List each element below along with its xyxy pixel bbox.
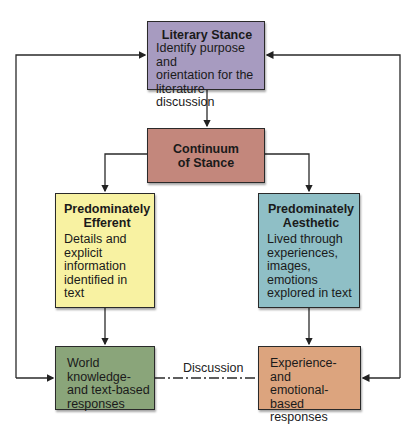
body-line: responses (67, 398, 150, 412)
node-world-knowledge-responses: World knowledge- and text-based response… (55, 346, 155, 410)
body-line: orientation for the (156, 69, 258, 83)
arrow-continuum-to-efferent (105, 154, 147, 191)
node-title: Literary Stance (156, 28, 258, 42)
node-predominately-aesthetic: Predominately Aesthetic Lived through ex… (258, 193, 360, 308)
body-line: explored in text (267, 287, 355, 301)
body-line: experiences, (267, 247, 355, 261)
node-body: World knowledge- and text-based response… (67, 357, 150, 411)
node-title: Predominately Efferent (64, 202, 150, 230)
node-body: Identify purpose and orientation for the… (156, 42, 258, 110)
node-literary-stance: Literary Stance Identify purpose and ori… (147, 21, 265, 90)
body-line: Lived through (267, 233, 355, 247)
body-line: information (64, 260, 150, 274)
body-line: World knowledge- (67, 357, 150, 384)
body-line: emotional-based (270, 384, 356, 411)
title-line: Aesthetic (267, 216, 355, 230)
body-line: literature discussion (156, 83, 258, 110)
node-body: Lived through experiences, images, emoti… (267, 233, 355, 301)
node-body: Experience- and emotional-based response… (270, 357, 356, 425)
node-experience-emotional-responses: Experience- and emotional-based response… (258, 346, 361, 410)
node-title: Predominately Aesthetic (267, 202, 355, 230)
body-line: Identify purpose and (156, 42, 258, 69)
title-line: Predominately (64, 202, 150, 216)
node-continuum-of-stance: Continuum of Stance (147, 128, 265, 183)
body-line: text (64, 287, 150, 301)
literary-stance-diagram: Literary Stance Identify purpose and ori… (0, 0, 419, 431)
body-line: images, emotions (267, 260, 355, 287)
node-body: Details and explicit information identif… (64, 233, 150, 301)
body-line: and text-based (67, 384, 150, 398)
title-line: Efferent (64, 216, 150, 230)
body-line: explicit (64, 247, 150, 261)
title-line: Predominately (267, 202, 355, 216)
title-line: Continuum (173, 142, 239, 156)
discussion-label: Discussion (183, 361, 243, 375)
body-line: Details and (64, 233, 150, 247)
body-line: identified in (64, 274, 150, 288)
arrow-continuum-to-aesthetic (265, 154, 309, 191)
body-line: responses (270, 411, 356, 425)
node-predominately-efferent: Predominately Efferent Details and expli… (55, 193, 155, 308)
title-line: of Stance (173, 156, 239, 170)
node-title: Continuum of Stance (173, 142, 239, 170)
body-line: Experience- and (270, 357, 356, 384)
